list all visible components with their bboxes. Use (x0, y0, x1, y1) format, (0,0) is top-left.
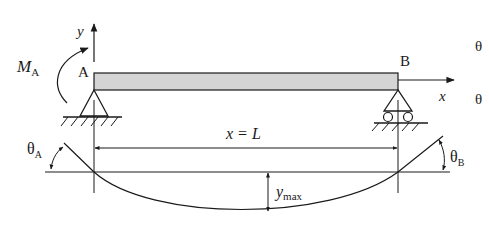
edge-theta-bottom: θ (475, 91, 482, 107)
span-label: x = L (225, 125, 261, 142)
theta-b-angle-icon (439, 140, 444, 170)
point-a-label: A (78, 64, 89, 80)
ymax-label: ymax (274, 183, 303, 202)
y-axis-label: y (75, 23, 84, 39)
theta-b-label: θB (450, 148, 465, 168)
beam (94, 73, 398, 90)
theta-a-label: θA (27, 140, 43, 160)
deflection-curve (64, 136, 443, 210)
edge-theta-top: θ (475, 38, 482, 54)
moment-label: MA (16, 57, 39, 78)
beam-diagram: y MA A B x (0, 0, 489, 230)
point-b-label: B (400, 53, 410, 69)
pin-support-a (61, 90, 122, 126)
roller-support-b (372, 90, 428, 131)
x-axis-label: x (438, 88, 446, 104)
theta-a-angle-icon (51, 147, 63, 169)
